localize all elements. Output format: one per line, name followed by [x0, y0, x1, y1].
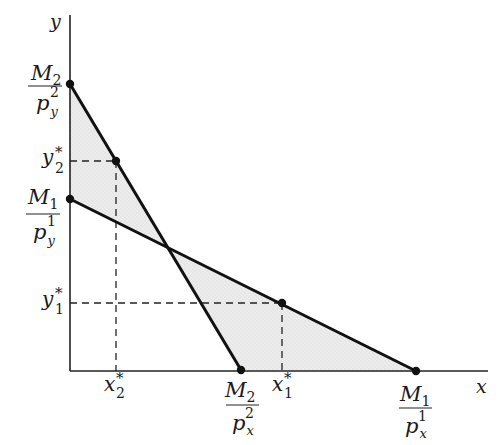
point-bundle-1 — [278, 299, 286, 307]
x-axis-label: x — [476, 375, 487, 397]
y-axis-label: y — [49, 10, 61, 32]
budget-line-2 — [70, 84, 241, 370]
svg-text:1: 1 — [47, 213, 56, 229]
label-x2-star: x 2 * — [104, 369, 125, 401]
svg-text:1: 1 — [284, 385, 293, 401]
point-x-intercept-2 — [237, 366, 245, 374]
point-y-intercept-2 — [66, 80, 74, 88]
svg-text:y: y — [41, 287, 54, 311]
svg-text:*: * — [284, 369, 292, 387]
label-x1-star: x 1 * — [272, 369, 293, 401]
svg-text:2: 2 — [116, 385, 125, 401]
svg-text:M1: M1 — [399, 382, 430, 409]
svg-text:*: * — [116, 369, 124, 387]
point-bundle-2 — [112, 157, 120, 165]
svg-text:x: x — [272, 372, 283, 396]
svg-text:2: 2 — [55, 160, 64, 176]
svg-text:1: 1 — [418, 408, 427, 424]
label-x-intercept-1: M1 px 1 — [399, 382, 432, 441]
budget-line-diagram: y x M2 py 2 y 2 * M1 py 1 y 1 * x 2 * M2… — [0, 0, 501, 445]
label-y-intercept-1: M1 py 1 — [26, 185, 60, 248]
svg-text:M2: M2 — [224, 378, 255, 405]
svg-text:1: 1 — [55, 301, 64, 317]
point-x-intercept-1 — [412, 367, 420, 375]
svg-text:*: * — [55, 143, 63, 161]
svg-text:M1: M1 — [27, 185, 58, 212]
svg-text:*: * — [55, 284, 63, 302]
svg-text:x: x — [104, 372, 115, 396]
label-y-intercept-2: M2 py 2 — [28, 61, 62, 119]
svg-text:y: y — [41, 145, 54, 169]
label-y2-star: y 2 * — [41, 143, 64, 176]
label-y1-star: y 1 * — [41, 284, 64, 317]
point-y-intercept-1 — [66, 195, 74, 203]
svg-text:2: 2 — [245, 405, 254, 421]
svg-text:2: 2 — [50, 84, 59, 100]
label-x-intercept-2: M2 px 2 — [224, 378, 259, 438]
